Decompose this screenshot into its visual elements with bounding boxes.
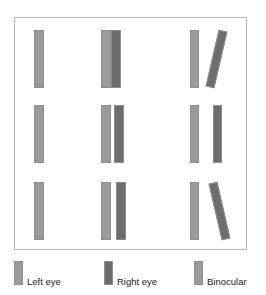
bar-left-eye: [190, 182, 199, 240]
cell-r3-c3: [15, 18, 246, 249]
cell-r1-c1: [15, 18, 246, 249]
legend-right-eye-label: Right eye: [117, 276, 157, 287]
legend-left-eye-label: Left eye: [27, 276, 61, 287]
bar-right-eye: [111, 30, 121, 88]
bar-right-eye-tilted: [209, 182, 231, 241]
cell-r1-c2: [15, 18, 246, 249]
figure-legend: Left eyeRight eyeBinocular: [0, 258, 266, 295]
bar-left-eye: [190, 105, 199, 163]
cell-r3-c1: [15, 18, 246, 249]
legend-right-eye-swatch: [104, 261, 113, 285]
bar-left-eye: [101, 30, 111, 88]
bar-right-eye: [213, 105, 222, 163]
cell-r2-c2: [15, 18, 246, 249]
bar-right-eye-tilted: [206, 30, 228, 89]
legend-binocular-label: Binocular: [207, 276, 247, 287]
bar-left-eye: [34, 105, 44, 163]
bar-right-eye: [116, 182, 126, 240]
bar-left-eye: [101, 105, 111, 163]
cell-r1-c3: [15, 18, 246, 249]
figure-panel: [14, 17, 247, 250]
cell-r2-c1: [15, 18, 246, 249]
bar-right-eye: [114, 105, 124, 163]
legend-left-eye-swatch: [14, 261, 23, 285]
cell-r2-c3: [15, 18, 246, 249]
cell-r3-c2: [15, 18, 246, 249]
bar-left-eye: [190, 30, 199, 88]
bar-left-eye: [34, 182, 44, 240]
legend-binocular-swatch: [194, 261, 203, 285]
bar-left-eye: [34, 30, 44, 88]
bar-left-eye: [101, 182, 111, 240]
